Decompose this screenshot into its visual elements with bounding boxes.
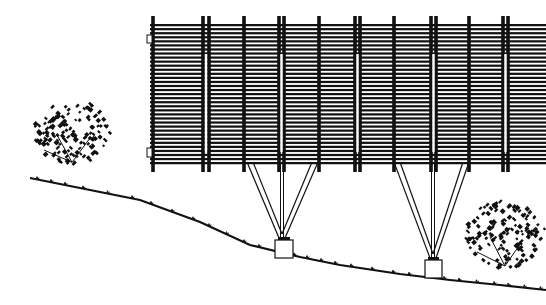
elevation-drawing bbox=[0, 0, 546, 305]
grass-tuft bbox=[493, 282, 496, 285]
grass-tuft bbox=[458, 278, 461, 281]
left-v-support bbox=[247, 162, 318, 258]
grass-tuft bbox=[443, 276, 446, 279]
grass-tuft bbox=[150, 201, 153, 204]
ground-profile bbox=[30, 178, 546, 290]
post bbox=[201, 16, 205, 172]
concrete-footing bbox=[275, 240, 293, 258]
grass-tuft bbox=[539, 287, 542, 290]
grass-tuft bbox=[107, 191, 110, 194]
post bbox=[242, 16, 246, 172]
post bbox=[467, 16, 471, 172]
post bbox=[392, 16, 396, 172]
v-supports bbox=[247, 162, 469, 278]
grass-tuft bbox=[523, 285, 526, 288]
post bbox=[207, 16, 211, 172]
grass-tuft bbox=[50, 179, 53, 182]
grass-tuft bbox=[306, 256, 309, 259]
post bbox=[282, 16, 286, 172]
concrete-footing bbox=[425, 260, 442, 278]
grass-tuft bbox=[350, 264, 353, 267]
grass-tuft bbox=[334, 261, 337, 264]
post bbox=[434, 16, 438, 172]
post bbox=[353, 16, 357, 172]
left-tree bbox=[33, 102, 112, 166]
post bbox=[277, 16, 281, 172]
grass-tuft bbox=[507, 283, 510, 286]
post bbox=[317, 16, 321, 172]
post bbox=[358, 16, 362, 172]
post bbox=[501, 16, 505, 172]
grass-tuft bbox=[208, 224, 211, 227]
slatted-canopy bbox=[147, 16, 546, 172]
post bbox=[429, 16, 433, 172]
grass-tuft bbox=[82, 186, 85, 189]
grass-tuft bbox=[408, 272, 411, 275]
grass-tuft bbox=[371, 267, 374, 270]
grass-tuft bbox=[320, 258, 323, 261]
right-tree bbox=[464, 199, 546, 270]
grass-tuft bbox=[243, 240, 246, 243]
grass-tuft bbox=[36, 177, 39, 180]
grass-tuft bbox=[171, 209, 174, 212]
grass-tuft bbox=[476, 280, 479, 283]
grass-tuft bbox=[226, 232, 229, 235]
grass-tuft bbox=[392, 270, 395, 273]
post bbox=[506, 16, 510, 172]
grass-tuft bbox=[64, 182, 67, 185]
grass-tuft bbox=[192, 217, 195, 220]
grass-tuft bbox=[258, 244, 261, 247]
right-v-support bbox=[394, 162, 469, 278]
grass-tuft bbox=[131, 196, 134, 199]
